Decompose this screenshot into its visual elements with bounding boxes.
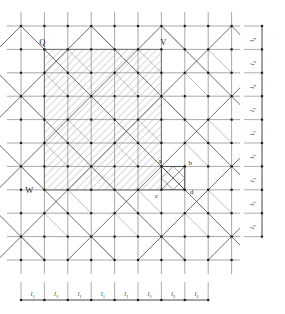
grid-node — [20, 142, 22, 144]
grid-node — [207, 95, 209, 97]
grid-node — [20, 72, 22, 74]
grid-node — [90, 95, 92, 97]
grid-node — [160, 165, 162, 167]
right-axis-label: l3 — [248, 224, 257, 229]
grid-node — [20, 212, 22, 214]
grid-node — [184, 142, 186, 144]
diagonal-line-short — [21, 237, 44, 260]
point-label-q: Q — [39, 37, 45, 47]
grid-node — [90, 48, 92, 50]
grid-node — [207, 212, 209, 214]
right-axis-label: l3 — [248, 130, 257, 135]
grid-node — [231, 165, 233, 167]
grid-node — [184, 236, 186, 238]
grid-node — [160, 236, 162, 238]
point-label-w: W — [25, 185, 33, 195]
grid-node — [43, 48, 45, 50]
lattice-grid-figure: QVWabcd l4l4l4l3l3l3l3l3l3 l1l1l1l1l1l1l… — [0, 0, 285, 314]
grid-node — [90, 236, 92, 238]
vertex-label-d: d — [190, 188, 194, 196]
grid-node — [137, 25, 139, 27]
diagonal-line-short — [185, 213, 208, 236]
grid-node — [43, 25, 45, 27]
grid-node — [207, 48, 209, 50]
grid-node — [90, 72, 92, 74]
diagonal-line-short — [115, 213, 138, 236]
grid-node — [137, 236, 139, 238]
bottom-axis-label: l2 — [194, 290, 199, 299]
diagonal-line-short — [208, 190, 231, 213]
grid-node — [160, 72, 162, 74]
bottom-axis-node — [160, 299, 162, 301]
diagonal-line-short — [161, 237, 184, 260]
grid-node — [184, 72, 186, 74]
right-axis-node — [261, 142, 263, 144]
right-axis-label: l4 — [248, 84, 257, 89]
grid-node — [43, 165, 45, 167]
grid-node — [160, 189, 162, 191]
grid-node — [43, 95, 45, 97]
grid-node — [231, 212, 233, 214]
diagonal-line-short — [91, 237, 114, 260]
grid-node — [114, 259, 116, 261]
grid-node — [137, 212, 139, 214]
right-axis-label: l3 — [248, 201, 257, 206]
grid-node — [137, 95, 139, 97]
grid-node — [137, 165, 139, 167]
grid-node — [114, 119, 116, 121]
grid-node — [43, 236, 45, 238]
diagonal-line-short — [44, 213, 67, 236]
diagonal-line-short — [68, 190, 91, 213]
bottom-axis-node — [114, 299, 116, 301]
grid-node — [43, 189, 45, 191]
grid-node — [184, 259, 186, 261]
grid-node — [207, 189, 209, 191]
bottom-axis-node — [207, 299, 209, 301]
grid-node — [231, 189, 233, 191]
bottom-axis-node — [90, 299, 92, 301]
grid-node — [231, 25, 233, 27]
vertex-label-b: b — [189, 159, 193, 167]
grid-node — [207, 142, 209, 144]
grid-node — [67, 189, 69, 191]
grid-node — [20, 25, 22, 27]
grid-node — [184, 212, 186, 214]
grid-node — [20, 95, 22, 97]
right-axis-label: l4 — [248, 37, 257, 42]
grid-node — [90, 212, 92, 214]
right-axis-label: l4 — [248, 60, 257, 65]
grid-node — [43, 142, 45, 144]
detail-square — [161, 166, 184, 189]
grid-node — [137, 72, 139, 74]
right-axis-label: l3 — [248, 107, 257, 112]
grid-node — [114, 236, 116, 238]
grid-node — [207, 236, 209, 238]
figure-canvas: QVWabcd l4l4l4l3l3l3l3l3l3 l1l1l1l1l1l1l… — [0, 0, 285, 314]
grid-node — [207, 72, 209, 74]
grid-node — [114, 165, 116, 167]
grid-node — [114, 212, 116, 214]
grid-node — [160, 25, 162, 27]
grid-node — [43, 119, 45, 121]
grid-node — [43, 72, 45, 74]
grid-node — [114, 95, 116, 97]
grid-node — [231, 142, 233, 144]
point-label-v: V — [160, 37, 167, 47]
grid-node — [43, 212, 45, 214]
right-dimension-axis: l4l4l4l3l3l3l3l3l3 — [244, 25, 263, 238]
right-axis-node — [261, 72, 263, 74]
grid-node — [231, 72, 233, 74]
grid-node — [160, 119, 162, 121]
grid-node — [184, 95, 186, 97]
grid-node — [231, 95, 233, 97]
grid-node — [184, 119, 186, 121]
bottom-axis-label: l1 — [77, 290, 82, 299]
grid-node — [114, 72, 116, 74]
vertex-label-c: c — [155, 192, 158, 200]
grid-node — [184, 189, 186, 191]
right-axis-node — [261, 165, 263, 167]
right-axis-node — [261, 212, 263, 214]
grid-node — [43, 259, 45, 261]
grid-node — [231, 259, 233, 261]
diagonal-line-short — [161, 96, 184, 119]
